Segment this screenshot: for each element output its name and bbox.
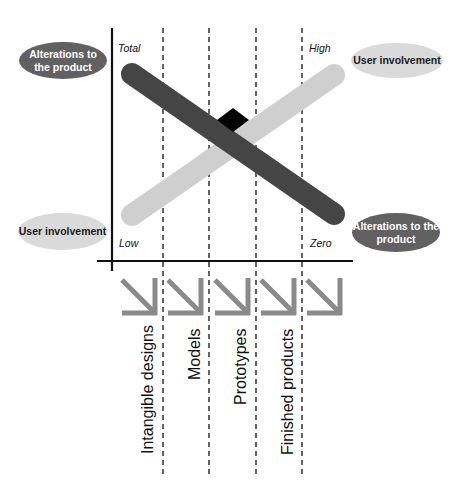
alterations-label-right: Alterations to the product (352, 213, 440, 252)
stage-label-prototypes: Prototypes (232, 329, 250, 405)
scale-label-total: Total (118, 42, 140, 54)
scale-label-high: High (309, 42, 331, 54)
down-right-arrow-icon (215, 278, 250, 315)
alterations-label-left-line1: Alterations to (29, 48, 97, 61)
alterations-vs-involvement-diagram: Alterations to the product User involvem… (0, 0, 459, 494)
down-right-arrow-icon (122, 278, 157, 315)
alterations-label-right-line1: Alterations to the (353, 220, 439, 233)
down-right-arrow-icon (307, 278, 342, 315)
user-involvement-label-right-text: User involvement (353, 54, 441, 67)
alterations-label-left-line2: the product (34, 61, 92, 74)
scale-label-low: Low (119, 237, 138, 249)
scale-label-zero: Zero (310, 237, 332, 249)
user-involvement-label-left: User involvement (18, 213, 107, 250)
stage-label-finished-products: Finished products (279, 329, 297, 455)
down-right-arrow-icon (261, 278, 296, 315)
user-involvement-label-left-text: User involvement (19, 225, 107, 238)
alterations-label-right-line2: product (376, 233, 415, 246)
stage-label-intangible-designs: Intangible designs (139, 325, 157, 454)
alterations-label-left: Alterations to the product (19, 42, 107, 79)
user-involvement-label-right: User involvement (351, 43, 443, 78)
stage-arrows (122, 278, 342, 315)
down-right-arrow-icon (168, 278, 203, 315)
stage-label-models: Models (186, 328, 204, 380)
